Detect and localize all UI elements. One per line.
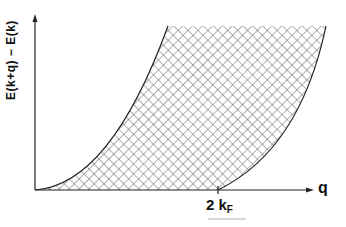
y-axis-label: E(k+q) − E(k): [4, 20, 18, 100]
diagram-canvas: [0, 0, 346, 227]
excitation-continuum: [35, 26, 326, 190]
fermi-tick-subscript: F: [227, 204, 233, 215]
fermi-tick-main: 2 k: [206, 196, 227, 213]
x-axis-arrow-icon: [306, 188, 314, 193]
x-axis-label: q: [318, 179, 328, 197]
fermi-tick-label: 2 kF: [206, 196, 233, 215]
y-axis-arrow-icon: [33, 14, 38, 22]
